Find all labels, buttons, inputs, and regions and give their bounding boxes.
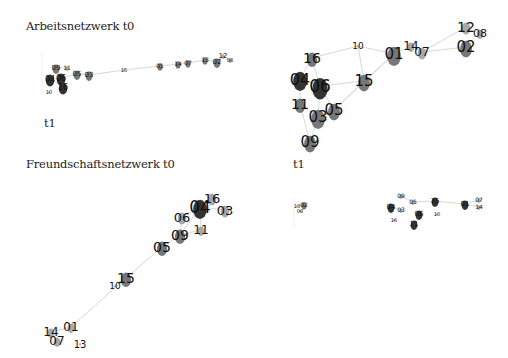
node-circle (393, 219, 395, 221)
network-node: 07 (49, 334, 64, 348)
network-node: 15 (354, 72, 373, 91)
network-edge (318, 86, 320, 117)
network-edge (414, 214, 419, 224)
network-node: 07 (475, 196, 483, 203)
node-circle (311, 110, 325, 129)
network-edge (61, 78, 63, 87)
node-circle (411, 220, 418, 230)
node-label: 10 (352, 41, 364, 51)
node-label: 04 (387, 203, 396, 211)
title-work-t1: t1 (44, 116, 56, 130)
network-edge (200, 207, 201, 230)
network-edge (71, 278, 126, 327)
network-node: 13 (294, 203, 300, 209)
network-node: 07 (414, 45, 429, 59)
node-label: 14 (475, 203, 483, 210)
network-node: 07 (184, 59, 192, 67)
node-label: 07 (184, 59, 192, 66)
network-node: 01 (461, 200, 470, 210)
network-edge (320, 86, 334, 110)
node-label: 06 (174, 210, 191, 225)
network-node: 15 (431, 197, 440, 207)
node-label: 10 (46, 89, 52, 95)
node-label: 03 (85, 71, 94, 79)
node-circle (307, 53, 317, 67)
node-circle (477, 198, 480, 203)
network-edge (56, 68, 61, 78)
network-node: 11 (410, 220, 419, 230)
node-circle (387, 47, 401, 66)
network-node: 04 (45, 75, 55, 87)
network-edge (310, 117, 318, 142)
node-label: 10 (434, 211, 440, 217)
node-circle (358, 75, 370, 92)
node-label: 07 (414, 45, 429, 59)
node-label: 03 (217, 203, 234, 218)
network-node: 09 (397, 192, 405, 199)
network-edge (217, 56, 223, 62)
node-circle (399, 208, 402, 213)
node-label: 01 (63, 320, 78, 334)
node-label: 01 (384, 45, 403, 63)
node-label: 09 (300, 133, 319, 151)
network-node: 06 (309, 76, 331, 100)
network-panel-friend-t1: 130208090515040306161110010714 (294, 192, 483, 230)
network-edge (180, 207, 200, 235)
node-label: 10 (109, 281, 121, 291)
network-node: 04 (290, 70, 310, 91)
node-circle (48, 328, 55, 338)
node-label: 16 (303, 50, 321, 66)
node-label: 05 (73, 70, 82, 78)
node-label: 03 (397, 206, 405, 213)
node-circle (175, 230, 185, 244)
node-circle (477, 205, 480, 210)
network-edge (178, 63, 188, 64)
network-node: 13 (74, 339, 87, 350)
node-label: 06 (56, 74, 66, 83)
node-circle (312, 78, 327, 100)
node-label: 02 (456, 38, 475, 56)
node-circle (208, 194, 217, 206)
network-node: 05 (409, 198, 417, 205)
node-circle (175, 61, 180, 68)
network-edge (180, 217, 182, 235)
network-panel-work-t1: 161001140712080204061511030509 (290, 19, 487, 153)
node-circle (48, 91, 50, 93)
network-panel-friend-t0: 04160306110905151001140713 (43, 191, 233, 350)
network-node: 05 (324, 101, 343, 120)
network-node: 11 (291, 96, 309, 113)
node-circle (357, 45, 359, 47)
title-work-t0: Arbeitsnetzwerk t0 (26, 19, 134, 33)
network-edge (200, 207, 225, 210)
node-label: 05 (409, 198, 417, 205)
node-circle (121, 273, 131, 287)
node-circle (198, 226, 205, 236)
network-edge (182, 207, 200, 217)
network-edge (223, 56, 230, 60)
title-friend-t1: t1 (293, 157, 305, 171)
network-node: 14 (43, 325, 58, 339)
network-node: 08 (297, 208, 303, 214)
network-edge (358, 46, 364, 81)
node-circle (436, 213, 438, 215)
node-label: 09 (171, 227, 189, 243)
node-circle (123, 69, 125, 71)
network-node: 02 (300, 201, 308, 209)
network-node: 06 (174, 210, 191, 225)
network-edge (188, 60, 205, 63)
node-circle (114, 285, 116, 287)
node-label: 04 (189, 197, 211, 217)
network-node: 08 (227, 57, 233, 63)
network-edge (124, 66, 160, 70)
node-circle (460, 41, 472, 58)
network-node: 05 (73, 70, 82, 80)
network-edge (126, 247, 162, 278)
network-node: 13 (201, 56, 209, 64)
node-circle (79, 343, 81, 345)
node-circle (57, 74, 66, 86)
node-label: 13 (201, 56, 209, 63)
node-circle (432, 197, 439, 207)
network-edge (162, 235, 180, 247)
network-edge (312, 46, 358, 58)
node-circle (54, 337, 61, 347)
